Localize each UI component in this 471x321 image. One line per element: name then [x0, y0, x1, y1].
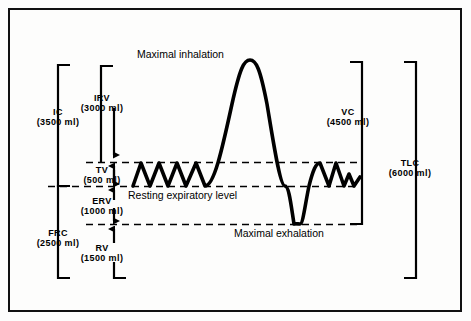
annotation-resting-expiratory-level: Resting expiratory level — [128, 190, 237, 201]
label-tlc: TLC (6000 ml) — [374, 158, 446, 178]
annotation-maximal-inhalation: Maximal inhalation — [137, 49, 224, 60]
figure-container: IC (3500 ml) IRV (3000 ml) TV (500 ml) E… — [0, 0, 471, 321]
label-ic-volume: (3500 ml) — [22, 117, 94, 127]
label-irv: IRV (3000 ml) — [66, 93, 138, 113]
label-erv-volume: (1000 ml) — [66, 206, 138, 216]
label-vc: VC (4500 ml) — [312, 107, 384, 127]
label-irv-volume: (3000 ml) — [66, 103, 138, 113]
label-tlc-volume: (6000 ml) — [374, 168, 446, 178]
rv-bracket — [114, 262, 126, 278]
label-tv-abbr: TV — [66, 165, 138, 175]
label-vc-volume: (4500 ml) — [312, 117, 384, 127]
label-tv: TV (500 ml) — [66, 165, 138, 185]
label-irv-abbr: IRV — [66, 93, 138, 103]
label-tlc-abbr: TLC — [374, 158, 446, 168]
label-rv-volume: (1500 ml) — [66, 253, 138, 263]
label-rv: RV (1500 ml) — [66, 243, 138, 263]
label-vc-abbr: VC — [312, 107, 384, 117]
label-tv-volume: (500 ml) — [66, 175, 138, 185]
label-frc-abbr: FRC — [22, 228, 94, 238]
annotation-maximal-exhalation: Maximal exhalation — [234, 228, 324, 239]
irv-bracket — [101, 66, 113, 162]
label-rv-abbr: RV — [66, 243, 138, 253]
vc-bracket — [350, 62, 362, 224]
